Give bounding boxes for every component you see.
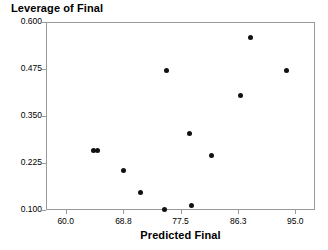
x-axis-title: Predicted Final: [46, 229, 315, 242]
y-tick-label: 0.475: [6, 64, 42, 73]
scatter-plot-chart: Leverage of Final 0.6000.4750.3500.2250.…: [0, 0, 328, 250]
x-tick-label: 68.8: [101, 216, 145, 226]
y-axis: 0.6000.4750.3500.2250.100: [0, 0, 42, 250]
x-tick-label: 95.0: [273, 216, 317, 226]
y-tick-label: 0.225: [6, 158, 42, 167]
y-tick-mark: [42, 210, 46, 211]
x-tick-mark: [238, 210, 239, 214]
x-tick-label: 60.0: [44, 216, 88, 226]
y-tick-label: 0.100: [6, 205, 42, 214]
x-tick-label: 86.3: [216, 216, 260, 226]
x-tick-mark: [295, 210, 296, 214]
y-tick-label: 0.350: [6, 111, 42, 120]
x-tick-label: 77.5: [159, 216, 203, 226]
x-tick-mark: [123, 210, 124, 214]
x-tick-mark: [181, 210, 182, 214]
x-tick-mark: [66, 210, 67, 214]
y-tick-label: 0.600: [6, 17, 42, 26]
plot-area: [46, 22, 315, 210]
